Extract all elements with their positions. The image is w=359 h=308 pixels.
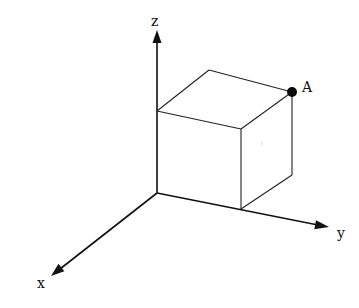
z-axis-arrowhead-icon — [153, 30, 162, 43]
coordinate-cube-diagram: z y x A — [0, 0, 359, 308]
y-axis-arrowhead-icon — [314, 220, 329, 229]
cube-edge-bottom-right — [241, 175, 292, 209]
cube-edge-top-back — [209, 70, 292, 92]
point-a-label: A — [301, 79, 313, 95]
x-axis-arrowhead-icon — [51, 264, 64, 276]
cube — [157, 70, 292, 209]
cube-edge-top-front — [157, 111, 241, 129]
scan-artifact — [261, 142, 263, 145]
cube-edge-top-left — [157, 70, 209, 111]
y-axis-label: y — [336, 225, 345, 241]
x-axis — [60, 193, 157, 269]
point-a-marker — [287, 87, 297, 97]
cube-edge-top-right — [241, 92, 292, 129]
y-axis — [157, 193, 318, 225]
z-axis-label: z — [151, 13, 158, 29]
x-axis-label: x — [37, 275, 45, 291]
axes — [51, 30, 329, 276]
